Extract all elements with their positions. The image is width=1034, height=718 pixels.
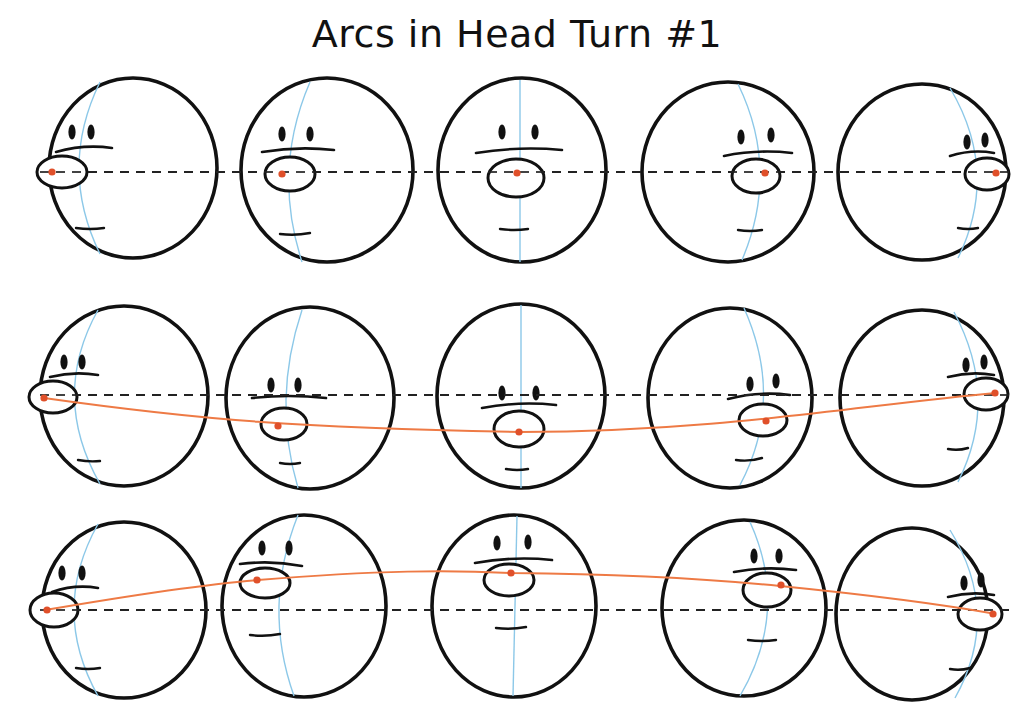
eye	[267, 378, 274, 393]
eye	[960, 576, 967, 591]
eye	[532, 386, 539, 401]
nose	[484, 564, 534, 596]
nose-tip-dot	[43, 606, 50, 613]
nose-tip-dot	[515, 428, 522, 435]
eye	[498, 125, 505, 140]
mouth	[78, 460, 100, 461]
eye	[531, 125, 538, 140]
nose-tip-dot	[762, 417, 769, 424]
eye	[524, 535, 531, 550]
eye	[775, 549, 782, 564]
eye	[278, 127, 285, 142]
eye	[767, 128, 774, 143]
nose-tip-dot	[989, 610, 996, 617]
eye	[285, 541, 292, 556]
head-outline	[222, 515, 386, 697]
eye	[977, 573, 984, 588]
head-three-quarter-left	[222, 515, 386, 697]
head-turn-diagram	[0, 0, 1034, 718]
head-three-quarter-right	[662, 520, 826, 696]
nose	[29, 381, 77, 413]
nose-tip-dot	[253, 576, 260, 583]
mouth	[748, 640, 776, 641]
mouth	[958, 228, 978, 229]
eye	[294, 378, 301, 393]
eye	[60, 355, 67, 370]
eye	[68, 125, 75, 140]
eye	[750, 549, 757, 564]
row-1-straight	[37, 78, 1010, 262]
nose-tip-dot	[777, 581, 784, 588]
nose	[965, 158, 1009, 190]
nose-tip-dot	[48, 168, 55, 175]
eye	[963, 135, 970, 150]
eye	[746, 377, 753, 392]
mouth	[280, 463, 300, 464]
eye	[493, 536, 500, 551]
eye	[498, 386, 505, 401]
nose-tip-dot	[991, 389, 998, 396]
head-three-quarter-left	[226, 307, 394, 489]
eye	[981, 133, 988, 148]
eye	[258, 541, 265, 556]
eye	[980, 355, 987, 370]
nose-tip-dot	[513, 169, 520, 176]
head-front	[432, 515, 596, 697]
eye	[962, 358, 969, 373]
nose	[30, 593, 78, 627]
mouth	[506, 469, 528, 470]
nose-tip-dot	[274, 422, 281, 429]
mouth	[500, 229, 528, 230]
nose-tip-dot	[992, 169, 999, 176]
nose	[488, 159, 544, 197]
nose	[240, 568, 290, 598]
heads	[42, 515, 994, 700]
mouth	[76, 668, 100, 669]
nose	[265, 157, 315, 191]
mouth	[738, 230, 762, 231]
head-outline	[662, 520, 826, 696]
nose-tip-dot	[278, 170, 285, 177]
eye	[306, 127, 313, 142]
eye	[737, 130, 744, 145]
eye	[87, 125, 94, 140]
mouth	[76, 228, 104, 229]
nose-tip-dot	[40, 394, 47, 401]
row-3-up-arc	[30, 515, 1010, 700]
rows-layer	[29, 78, 1010, 700]
nose-tip-dot	[761, 169, 768, 176]
heads	[40, 304, 1004, 489]
head-three-quarter-right	[648, 308, 812, 488]
eye	[78, 355, 85, 370]
nose	[743, 573, 791, 607]
eye	[78, 566, 85, 581]
nose-tip-dot	[507, 569, 514, 576]
nose	[732, 159, 780, 193]
row-2-down-arc	[29, 304, 1010, 489]
eye	[772, 374, 779, 389]
eye	[58, 566, 65, 581]
